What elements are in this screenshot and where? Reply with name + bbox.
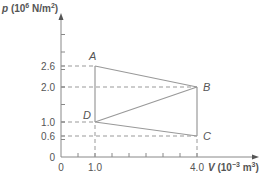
- x-tick-label: 4.0: [190, 162, 204, 173]
- y-axis-arrow-icon: [59, 13, 64, 20]
- x-tick-label: 0: [58, 162, 64, 173]
- y-axis-title: p (106 N/m2): [1, 2, 58, 14]
- point-label-A: A: [88, 50, 96, 62]
- point-label-C: C: [203, 130, 211, 142]
- point-label-D: D: [83, 109, 91, 121]
- y-tick-label: 0: [49, 152, 55, 163]
- x-axis-title: V (10−3 m3): [208, 161, 259, 173]
- x-axis-arrow-icon: [252, 155, 259, 160]
- axes: [59, 13, 260, 160]
- guide-lines: [61, 66, 197, 157]
- y-tick-label: 2.6: [41, 61, 55, 72]
- x-tick-label: 1.0: [88, 162, 102, 173]
- y-tick-label: 0.6: [41, 131, 55, 142]
- point-label-B: B: [203, 81, 210, 93]
- pv-diagram: 00.61.02.02.601.04.0ABCD p (106 N/m2) V …: [0, 0, 261, 175]
- segment-BD: [95, 87, 197, 122]
- segment-AB: [95, 66, 197, 87]
- segment-DC: [95, 122, 197, 136]
- y-tick-label: 1.0: [41, 117, 55, 128]
- cycle-path: [95, 66, 197, 136]
- y-tick-label: 2.0: [41, 82, 55, 93]
